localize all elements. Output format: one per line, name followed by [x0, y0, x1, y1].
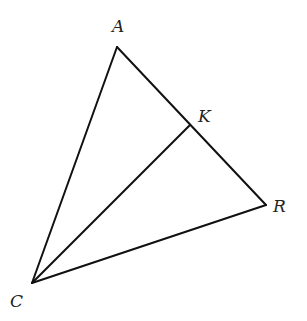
vertex-label-R: R: [272, 196, 286, 216]
segment-CR: [32, 205, 266, 283]
vertex-label-C: C: [10, 291, 23, 311]
triangle-diagram: A K R C: [0, 0, 307, 321]
point-label-K: K: [197, 106, 212, 126]
segment-CK: [32, 125, 190, 283]
segment-AR: [117, 47, 266, 205]
segment-AC: [32, 47, 117, 283]
vertex-label-A: A: [110, 16, 124, 36]
